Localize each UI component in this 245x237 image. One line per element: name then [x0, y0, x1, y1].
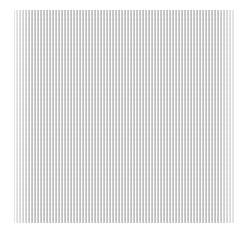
image-canvas: [0, 0, 245, 237]
fabric-texture-swatch: [14, 10, 235, 223]
